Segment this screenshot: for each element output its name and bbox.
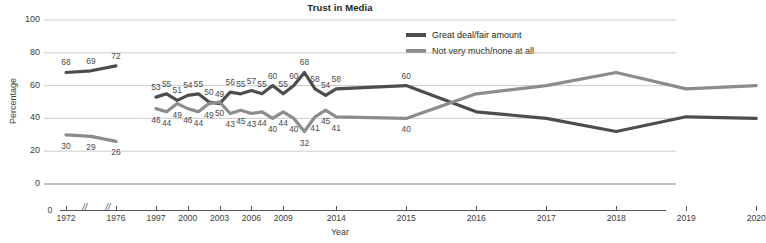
y-tick-label: 0 <box>14 178 40 188</box>
x-axis-tick <box>476 206 477 211</box>
x-tick-label: 2003 <box>210 213 229 223</box>
series-line <box>66 135 116 142</box>
x-tick-label: 2009 <box>274 213 293 223</box>
x-axis-tick <box>756 206 757 211</box>
x-tick-label: 2016 <box>467 213 486 223</box>
x-axis-tick <box>406 206 407 211</box>
x-tick-label: 1972 <box>56 213 75 223</box>
x-axis-tick <box>251 206 252 211</box>
x-axis-tick <box>116 206 117 211</box>
y-tick-label: 60 <box>14 80 40 90</box>
x-axis-line <box>60 210 666 211</box>
x-tick-label: 2015 <box>397 213 416 223</box>
x-tick-label: 1976 <box>106 213 125 223</box>
x-tick-label: 2018 <box>607 213 626 223</box>
y-axis-title: Percentage <box>8 66 18 136</box>
x-tick-label: 2014 <box>327 213 346 223</box>
x-tick-label: 2020 <box>747 213 766 223</box>
x-axis-tick <box>283 206 284 211</box>
x-axis-tick <box>220 206 221 211</box>
x-tick-label: 1997 <box>146 213 165 223</box>
y-tick-label: 20 <box>14 145 40 155</box>
y-tick-label: 40 <box>14 112 40 122</box>
x-axis-tick <box>686 206 687 211</box>
y-tick-label: 80 <box>14 47 40 57</box>
series-line <box>156 73 756 132</box>
x-tick-label: 2019 <box>677 213 696 223</box>
x-axis-tick <box>616 206 617 211</box>
x-axis-tick <box>546 206 547 211</box>
x-tick-label: 2006 <box>242 213 261 223</box>
series-line <box>66 66 116 73</box>
x-axis-tick <box>66 206 67 211</box>
x-axis-tick <box>336 206 337 211</box>
x-axis-title: Year <box>0 227 680 237</box>
y-tick-label: 100 <box>14 14 40 24</box>
x-tick-label: 2017 <box>537 213 556 223</box>
x-axis-tick <box>188 206 189 211</box>
chart-title: Trust in Media <box>0 2 680 13</box>
x-axis-tick <box>156 206 157 211</box>
x-axis-origin-label: 0 <box>48 205 53 215</box>
plot-area: 6869725355515455504956555755605560685854… <box>44 14 676 196</box>
x-tick-label: 2000 <box>178 213 197 223</box>
plot-svg <box>44 14 676 196</box>
